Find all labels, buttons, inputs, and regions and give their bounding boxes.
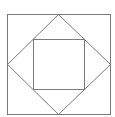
diamond xyxy=(8,15,111,115)
nested-squares-diagram xyxy=(0,0,115,117)
outer-square xyxy=(8,15,111,115)
inner-square xyxy=(34,40,85,90)
